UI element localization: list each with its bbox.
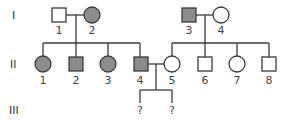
generation-label-III: III <box>9 104 19 117</box>
individual-II-4-male-affected <box>134 57 148 71</box>
individual-II-7-female-unaffected <box>229 56 245 72</box>
individual-I-4-female-unaffected <box>213 7 229 23</box>
individual-number-II-8: 8 <box>266 74 273 87</box>
individual-number-II-2: 2 <box>73 74 80 87</box>
individual-I-2-female-affected <box>84 7 100 23</box>
individual-II-2-male-affected <box>69 57 83 71</box>
individual-III-1-unknown: ? <box>137 104 143 117</box>
individual-number-II-6: 6 <box>202 74 209 87</box>
individual-II-8-male-unaffected <box>262 57 276 71</box>
pedigree-chart: I II III 1 2 3 4 1 2 3 4 5 6 7 8 ? ? <box>0 0 292 124</box>
individual-number-II-3: 3 <box>105 74 112 87</box>
generation-label-I: I <box>12 9 15 22</box>
individual-number-I-1: 1 <box>56 24 63 37</box>
individual-number-II-7: 7 <box>234 74 241 87</box>
individual-II-5-female-unaffected <box>164 56 180 72</box>
individual-II-3-female-affected <box>100 56 116 72</box>
generation-label-II: II <box>10 58 17 71</box>
individual-III-2-unknown: ? <box>169 104 175 117</box>
individual-number-I-4: 4 <box>218 24 225 37</box>
individual-number-II-1: 1 <box>40 74 47 87</box>
individual-number-II-4: 4 <box>137 74 144 87</box>
individual-II-6-male-unaffected <box>198 57 212 71</box>
individual-number-II-5: 5 <box>169 74 176 87</box>
individual-number-I-3: 3 <box>186 24 193 37</box>
individual-II-1-female-affected <box>35 56 51 72</box>
individual-I-3-male-affected <box>182 8 196 22</box>
individual-number-I-2: 2 <box>89 24 96 37</box>
individual-I-1-male-unaffected <box>52 8 66 22</box>
